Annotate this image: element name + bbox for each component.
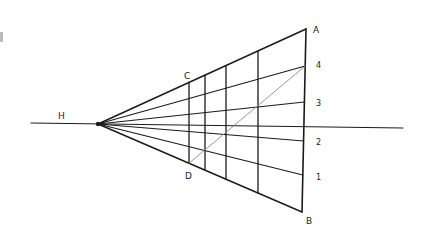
label-b: B xyxy=(306,216,312,226)
orthogonal-line xyxy=(98,29,306,124)
diagonal-line xyxy=(189,66,305,163)
diagram-canvas: H A B C D 4 3 2 1 xyxy=(0,0,423,240)
horizon-line xyxy=(31,123,403,128)
vanishing-point xyxy=(96,122,100,126)
right-edge-ab xyxy=(302,29,306,212)
label-division-3: 3 xyxy=(316,99,321,108)
label-c: C xyxy=(184,71,190,81)
orthogonal-line xyxy=(98,124,303,175)
perspective-diagram: H A B C D 4 3 2 1 xyxy=(0,0,423,240)
label-division-4: 4 xyxy=(316,61,321,70)
label-division-1: 1 xyxy=(316,173,321,182)
diagram-lines xyxy=(31,29,403,212)
edge-mark xyxy=(0,32,3,42)
orthogonal-line xyxy=(98,124,302,212)
label-horizon: H xyxy=(58,111,65,121)
label-division-2: 2 xyxy=(316,138,321,147)
label-a: A xyxy=(313,25,320,35)
orthogonal-line xyxy=(98,102,304,124)
label-d: D xyxy=(185,171,192,181)
orthogonal-line xyxy=(98,66,305,124)
